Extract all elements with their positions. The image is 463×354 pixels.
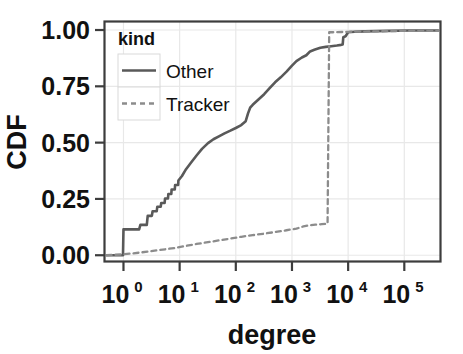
legend-label-tracker: Tracker [166, 94, 230, 115]
y-tick-label: 0.75 [41, 72, 90, 100]
x-tick-mantissa: 10 [382, 280, 410, 308]
x-tick-mantissa: 10 [214, 280, 242, 308]
legend-title: kind [118, 29, 155, 49]
x-tick-exponent: 5 [415, 278, 423, 295]
x-tick-exponent: 0 [134, 278, 142, 295]
legend-label-other: Other [166, 61, 214, 82]
x-tick-exponent: 1 [190, 278, 198, 295]
x-tick-exponent: 4 [359, 278, 368, 295]
y-tick-label: 0.50 [41, 129, 90, 157]
x-tick-exponent: 2 [247, 278, 255, 295]
x-axis-title: degree [228, 320, 317, 350]
x-tick-mantissa: 10 [326, 280, 354, 308]
y-tick-label: 1.00 [41, 16, 90, 44]
chart-figure: 100101102103104105 0.000.250.500.751.00 … [0, 0, 463, 354]
x-tick-mantissa: 10 [270, 280, 298, 308]
x-tick-mantissa: 10 [102, 280, 130, 308]
x-tick-exponent: 3 [303, 278, 311, 295]
y-tick-label: 0.25 [41, 185, 90, 213]
x-tick-mantissa: 10 [158, 280, 186, 308]
y-axis-title: CDF [2, 114, 32, 170]
cdf-plot: 100101102103104105 0.000.250.500.751.00 … [0, 0, 463, 354]
y-tick-label: 0.00 [41, 241, 90, 269]
